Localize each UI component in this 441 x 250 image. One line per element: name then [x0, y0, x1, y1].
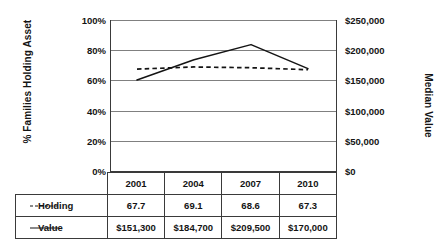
- cell-holding-2004: 69.1: [165, 195, 222, 217]
- cell-value-2004: $184,700: [165, 217, 222, 239]
- gridlines: [110, 21, 337, 172]
- data-table: 2001 2004 2007 2010 Holding 67.7 69.1 68…: [15, 172, 337, 239]
- cell-holding-2010: 67.3: [279, 195, 336, 217]
- plot-area: [110, 20, 337, 172]
- dashed-line-marker-icon: [30, 205, 58, 206]
- left-axis-title: % Families Holding Asset: [22, 24, 33, 144]
- right-axis-title: Median Value: [423, 46, 434, 166]
- axis-spines: [111, 20, 337, 172]
- right-tick-50000: $50,000: [345, 137, 379, 147]
- cell-holding-2001: 67.7: [107, 195, 164, 217]
- solid-line-marker-icon: [30, 227, 58, 228]
- table-row: Holding 67.7 69.1 68.6 67.3: [16, 195, 337, 217]
- left-tick-80: 80%: [87, 46, 106, 56]
- series-line-value: [137, 45, 308, 80]
- table-corner-cell: [16, 173, 108, 195]
- table-row: Value $151,300 $184,700 $209,500 $170,00…: [16, 217, 337, 239]
- table-header-row: 2001 2004 2007 2010: [16, 173, 337, 195]
- left-tick-60: 60%: [87, 76, 106, 86]
- cell-value-2001: $151,300: [107, 217, 164, 239]
- series-line-holding: [137, 67, 308, 70]
- left-tick-40: 40%: [87, 107, 106, 117]
- table-col-header-2004: 2004: [165, 173, 222, 195]
- right-tick-100000: $100,000: [345, 107, 385, 117]
- legend-row-value: Value: [16, 217, 108, 239]
- right-tick-150000: $150,000: [345, 76, 385, 86]
- left-tick-100: 100%: [82, 16, 106, 26]
- cell-value-2007: $209,500: [222, 217, 279, 239]
- table-col-header-2001: 2001: [107, 173, 164, 195]
- right-axis-tick-labels: $250,000 $200,000 $150,000 $100,000 $50,…: [345, 0, 415, 250]
- left-tick-20: 20%: [87, 137, 106, 147]
- table-col-header-2007: 2007: [222, 173, 279, 195]
- legend-row-holding: Holding: [16, 195, 108, 217]
- cell-value-2010: $170,000: [279, 217, 336, 239]
- chart-figure: % Families Holding Asset Median Value 10…: [0, 0, 441, 250]
- right-tick-0: $0: [345, 167, 356, 177]
- plot-svg: [110, 20, 337, 172]
- right-tick-200000: $200,000: [345, 46, 385, 56]
- table-col-header-2010: 2010: [279, 173, 336, 195]
- cell-holding-2007: 68.6: [222, 195, 279, 217]
- right-tick-250000: $250,000: [345, 16, 385, 26]
